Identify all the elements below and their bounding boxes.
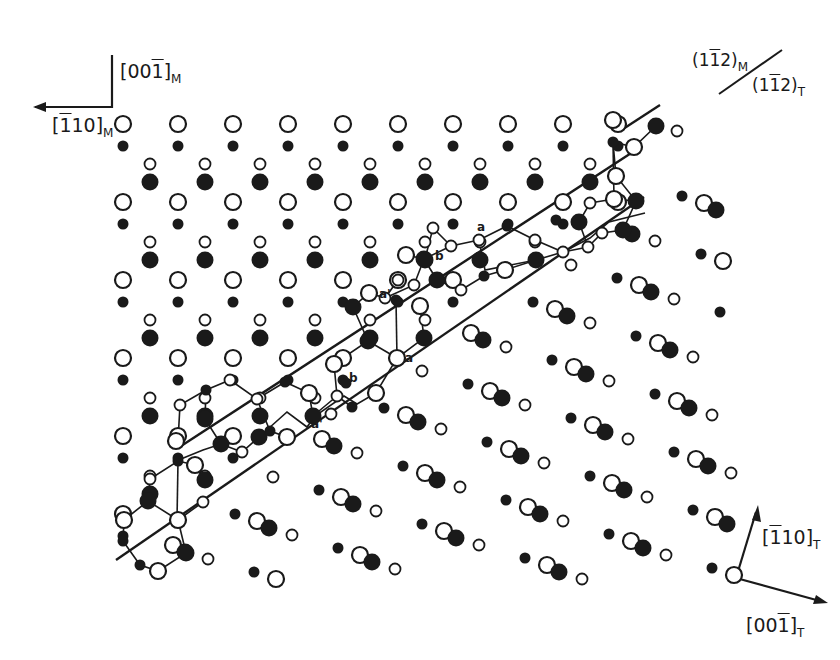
atom-large-filled (345, 299, 362, 316)
atom-small-filled (338, 141, 349, 152)
atom-small-open (393, 275, 404, 286)
atom-small-filled (417, 519, 428, 530)
plane-label-m: (112)M (692, 52, 748, 73)
parent-axes (736, 505, 828, 604)
atom-large-filled (708, 202, 725, 219)
atom-large-open (390, 116, 406, 132)
atom-small-open (474, 540, 485, 551)
atom-small-filled (173, 375, 184, 386)
atom-large-open (170, 512, 186, 528)
axis-label-001-m: [001]M (120, 62, 181, 85)
atom-label-b-lower: b (349, 372, 358, 384)
atom-large-filled (475, 332, 492, 349)
atom-large-filled (364, 554, 381, 571)
atom-large-filled (360, 333, 377, 350)
atom-small-open (642, 492, 653, 503)
atom-large-open (389, 350, 405, 366)
atom-large-filled (662, 342, 679, 359)
atom-large-filled (416, 251, 433, 268)
atom-small-filled (479, 271, 490, 282)
atom-large-open (279, 429, 295, 445)
atom-small-filled (696, 249, 707, 260)
atom-small-filled (338, 219, 349, 230)
atom-small-filled (118, 219, 129, 230)
atom-small-filled (201, 385, 212, 396)
atom-small-filled (283, 141, 294, 152)
atom-small-open (530, 235, 541, 246)
atom-large-open (280, 116, 296, 132)
atom-large-filled (213, 436, 230, 453)
atom-large-filled (142, 408, 159, 425)
atom-small-filled (463, 379, 474, 390)
atom-large-filled (142, 252, 159, 269)
atom-large-filled (197, 330, 214, 347)
atom-large-open (361, 285, 377, 301)
atom-small-open (200, 315, 211, 326)
atom-small-open (420, 315, 431, 326)
atom-large-open (280, 350, 296, 366)
atom-small-filled (118, 141, 129, 152)
atom-large-open (170, 116, 186, 132)
atom-small-open (475, 159, 486, 170)
arrowhead-up-icon (752, 505, 761, 522)
atom-large-filled (643, 284, 660, 301)
atom-small-filled (501, 495, 512, 506)
atom-large-filled (362, 174, 379, 191)
atom-small-filled (608, 137, 619, 148)
atom-large-open (170, 272, 186, 288)
atom-small-open (200, 237, 211, 248)
atom-large-filled (578, 366, 595, 383)
atom-small-filled (448, 219, 459, 230)
atom-large-filled (307, 174, 324, 191)
atom-small-open (145, 237, 156, 248)
atom-small-filled (448, 297, 459, 308)
atom-large-filled (615, 222, 632, 239)
atom-large-open (335, 116, 351, 132)
atom-large-filled (252, 408, 269, 425)
plane-label-t: (112)T (752, 77, 805, 98)
atom-small-open (585, 318, 596, 329)
atom-small-open (255, 159, 266, 170)
atom-small-open (436, 424, 447, 435)
atom-large-open (280, 194, 296, 210)
atom-large-filled (178, 545, 195, 562)
atom-large-filled (582, 174, 599, 191)
atom-large-filled (345, 496, 362, 513)
atom-large-filled (252, 330, 269, 347)
atom-large-open (115, 116, 131, 132)
atom-large-open (187, 457, 203, 473)
atom-small-open (175, 400, 186, 411)
atom-small-filled (612, 273, 623, 284)
atom-small-open (225, 375, 236, 386)
atom-small-open (332, 391, 343, 402)
atom-large-filled (197, 411, 214, 428)
atom-large-filled (513, 448, 530, 465)
atom-small-open (726, 468, 737, 479)
atom-small-open (255, 315, 266, 326)
atom-small-filled (503, 141, 514, 152)
atom-small-filled (448, 141, 459, 152)
atom-small-open (669, 294, 680, 305)
atom-large-filled (700, 458, 717, 475)
atom-small-open (310, 237, 321, 248)
atom-small-filled (393, 141, 404, 152)
atom-large-filled (681, 400, 698, 417)
atom-small-open (520, 400, 531, 411)
atom-large-filled (307, 252, 324, 269)
atom-small-open (455, 482, 466, 493)
atom-large-filled (252, 252, 269, 269)
atom-large-open (326, 356, 342, 372)
atom-label-a-lower: a (405, 352, 413, 364)
atom-small-open (310, 159, 321, 170)
atom-large-filled (307, 330, 324, 347)
atom-small-open (558, 516, 569, 527)
atom-small-open (456, 285, 467, 296)
atom-small-open (371, 506, 382, 517)
atom-large-filled (326, 438, 343, 455)
atom-large-open (500, 194, 516, 210)
atom-large-open (555, 194, 571, 210)
atom-small-open (145, 393, 156, 404)
atom-small-filled (230, 509, 241, 520)
bond-line (123, 502, 203, 571)
atom-large-open (168, 433, 184, 449)
